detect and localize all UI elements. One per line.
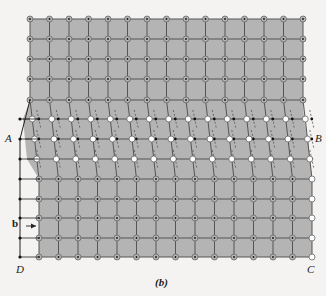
- lower-atom: [309, 196, 315, 202]
- lower-atom-center: [97, 256, 99, 258]
- lower-atom-center: [214, 256, 216, 258]
- lower-atom-center: [77, 198, 79, 200]
- upper-atom-center: [49, 99, 51, 101]
- lower-atom-center: [292, 217, 294, 219]
- reference-atom-dot: [193, 118, 196, 121]
- open-atom: [248, 156, 254, 162]
- label-C: C: [307, 263, 314, 275]
- lower-atom-center: [77, 237, 79, 239]
- lower-atom: [309, 235, 315, 241]
- reference-atom-dot: [96, 118, 99, 121]
- upper-atom-center: [49, 58, 51, 60]
- lower-atom-center: [77, 217, 79, 219]
- lower-atom-center: [116, 256, 118, 258]
- lower-atom-center: [253, 178, 255, 180]
- lower-atom: [309, 215, 315, 221]
- lower-atom-center: [77, 256, 79, 258]
- upper-atom-center: [244, 78, 246, 80]
- lower-atom-center: [58, 198, 60, 200]
- upper-atom-center: [166, 78, 168, 80]
- open-atom: [149, 136, 155, 142]
- lower-atom: [309, 254, 315, 260]
- upper-atom-center: [107, 78, 109, 80]
- lower-atom-center: [272, 237, 274, 239]
- open-atom: [287, 156, 293, 162]
- upper-atom-center: [166, 18, 168, 20]
- upper-atom-center: [244, 58, 246, 60]
- upper-atom-center: [29, 58, 31, 60]
- upper-atom-center: [205, 78, 207, 80]
- upper-atom-center: [224, 99, 226, 101]
- upper-atom-center: [263, 38, 265, 40]
- lower-atom-center: [292, 256, 294, 258]
- upper-atom-center: [49, 18, 51, 20]
- upper-atom-center: [88, 99, 90, 101]
- lower-atom-center: [214, 217, 216, 219]
- lower-atom-center: [292, 198, 294, 200]
- open-atom: [268, 156, 274, 162]
- lower-atom-center: [272, 217, 274, 219]
- upper-atom-center: [68, 78, 70, 80]
- upper-atom-center: [205, 99, 207, 101]
- upper-atom-center: [88, 58, 90, 60]
- lower-atom-center: [214, 198, 216, 200]
- reference-atom-dot: [291, 118, 294, 121]
- circuit-dot: [18, 117, 21, 120]
- reference-atom-dot: [115, 118, 118, 121]
- lower-atom-center: [97, 217, 99, 219]
- open-atom: [207, 136, 213, 142]
- open-atom: [185, 116, 191, 122]
- upper-atom-center: [166, 58, 168, 60]
- open-atom: [107, 116, 113, 122]
- open-atom: [285, 136, 291, 142]
- open-atom: [131, 156, 137, 162]
- open-atom: [307, 156, 313, 162]
- open-atom: [168, 136, 174, 142]
- lower-atom-center: [155, 217, 157, 219]
- lower-atom-center: [155, 198, 157, 200]
- upper-atom-center: [68, 58, 70, 60]
- open-atom: [92, 156, 98, 162]
- upper-atom-center: [263, 18, 265, 20]
- lower-atom-center: [116, 217, 118, 219]
- lower-atom-center: [292, 178, 294, 180]
- lower-atom-center: [253, 256, 255, 258]
- upper-atom-center: [146, 99, 148, 101]
- lower-atom-center: [155, 178, 157, 180]
- label-B: B: [315, 132, 322, 144]
- lower-atom-center: [97, 237, 99, 239]
- circuit-dot: [18, 157, 21, 160]
- upper-atom-center: [263, 58, 265, 60]
- reference-atom-dot: [271, 118, 274, 121]
- upper-atom-center: [283, 18, 285, 20]
- upper-atom-center: [185, 99, 187, 101]
- upper-atom-center: [88, 78, 90, 80]
- upper-atom-center: [107, 58, 109, 60]
- open-atom: [224, 116, 230, 122]
- open-atom: [302, 116, 308, 122]
- open-atom: [71, 136, 77, 142]
- upper-atom-center: [29, 78, 31, 80]
- open-atom: [90, 136, 96, 142]
- upper-atom-center: [185, 38, 187, 40]
- lower-atom-center: [58, 217, 60, 219]
- upper-atom-center: [88, 38, 90, 40]
- open-atom: [209, 156, 215, 162]
- lower-atom-center: [214, 178, 216, 180]
- lower-atom-center: [77, 178, 79, 180]
- upper-atom-center: [29, 38, 31, 40]
- figure-caption: (b): [155, 276, 168, 288]
- upper-atom-center: [107, 38, 109, 40]
- upper-atom-center: [107, 18, 109, 20]
- upper-atom-center: [146, 78, 148, 80]
- lower-atom-center: [233, 237, 235, 239]
- lower-atom-center: [97, 198, 99, 200]
- upper-atom-center: [127, 78, 129, 80]
- upper-atom-center: [127, 38, 129, 40]
- open-atom: [127, 116, 133, 122]
- upper-atom-center: [146, 58, 148, 60]
- upper-atom-center: [107, 99, 109, 101]
- reference-atom-dot: [76, 118, 79, 121]
- open-atom: [88, 116, 94, 122]
- upper-atom-center: [127, 18, 129, 20]
